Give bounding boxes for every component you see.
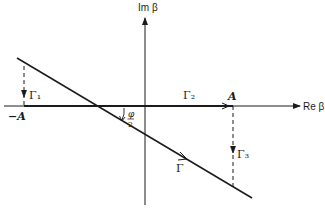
gamma1-label: Γ₁ (29, 89, 41, 102)
gamma3-label: Γ₃ (237, 148, 249, 161)
real-axis-label: Re β (303, 101, 325, 112)
contour-diagram: Im β Re β Γ₂ −A A Γ Γ₁ Γ₃ φ 2 (0, 0, 325, 212)
gamma3-arrow-icon (231, 146, 236, 153)
angle-denominator: 2 (128, 120, 133, 129)
point-A-label: A (227, 90, 237, 103)
contour-gamma3: Γ₃ (231, 106, 250, 187)
angle-numerator: φ (128, 109, 135, 119)
contour-gamma2: Γ₂ (24, 89, 233, 109)
gamma2-label: Γ₂ (183, 89, 195, 102)
angle-phi-half: φ 2 (120, 108, 136, 129)
point-neg-A-label: −A (8, 110, 26, 123)
gamma1-arrow-icon (22, 90, 27, 97)
imaginary-axis-label: Im β (138, 2, 158, 13)
contour-gamma: Γ (17, 58, 252, 198)
imaginary-axis: Im β (138, 2, 158, 205)
gamma-label: Γ (176, 162, 184, 175)
contour-gamma1: Γ₁ (22, 66, 42, 106)
